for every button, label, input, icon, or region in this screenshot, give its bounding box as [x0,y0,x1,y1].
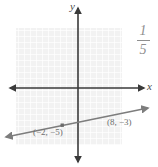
point-label-a: (−2, −5) [33,127,63,137]
slope-denominator: 5 [132,42,154,57]
slope-annotation: 1 5 [132,24,154,57]
y-axis-label: y [70,0,75,12]
point-label-b: (8, −3) [107,117,132,127]
x-axis-label: x [147,80,152,92]
fraction-bar [137,40,150,41]
grid-area [16,28,122,145]
slope-numerator: 1 [132,24,154,39]
